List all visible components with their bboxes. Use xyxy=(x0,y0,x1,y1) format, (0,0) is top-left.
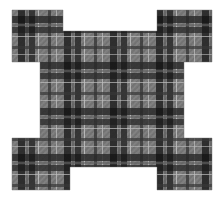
image-canvas xyxy=(0,0,221,199)
plaid-swatch-figure xyxy=(0,0,221,199)
